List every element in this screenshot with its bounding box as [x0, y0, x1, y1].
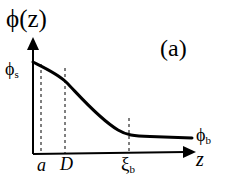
phi-s-label: ϕs	[5, 60, 19, 80]
phi-curve	[33, 62, 192, 138]
x-axis-label: z	[196, 149, 204, 169]
x-axis-arrow-icon	[183, 146, 196, 158]
x-tick-d: D	[60, 155, 73, 173]
y-axis-label: ϕ(z)	[6, 6, 47, 31]
x-tick-a: a	[37, 156, 46, 174]
x-tick-xi-b: ξb	[121, 154, 135, 175]
phi-b-label: ϕb	[196, 126, 211, 146]
y-axis-arrow-icon	[27, 37, 39, 50]
panel-label: (a)	[160, 36, 187, 60]
x-axis	[33, 152, 186, 154]
